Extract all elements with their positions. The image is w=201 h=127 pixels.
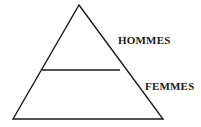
pyramid-triangle-outline [13,5,163,119]
diagram-canvas: HOMMES FEMMES [0,0,201,127]
segment-label-femmes: FEMMES [145,81,194,92]
pyramid-diagram-svg [0,0,201,127]
segment-label-hommes: HOMMES [118,35,171,46]
